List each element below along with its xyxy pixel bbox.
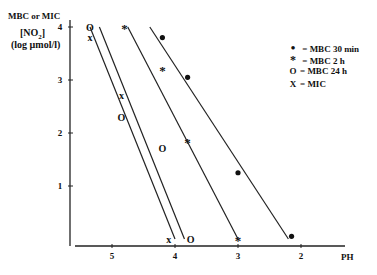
x-tick-label: 2 xyxy=(299,251,304,261)
legend-label: = MBC 2 h xyxy=(302,56,344,66)
legend-item-mbc-2h: * = MBC 2 h xyxy=(286,53,359,65)
data-point-star: * xyxy=(184,135,191,150)
fit-line xyxy=(128,27,238,239)
data-point-circle: O xyxy=(187,234,195,245)
data-point-star: * xyxy=(121,21,128,36)
data-point-star: * xyxy=(235,233,242,248)
legend-label: = MIC xyxy=(300,79,326,89)
y-tick-label: 1 xyxy=(58,181,63,191)
legend-item-mbc-30min: • = MBC 30 min xyxy=(286,40,359,52)
y-tick-label: 2 xyxy=(58,128,63,138)
x-tick-label: 3 xyxy=(236,251,241,261)
fit-line xyxy=(150,27,289,239)
data-point-circle: O xyxy=(159,143,167,154)
legend-symbol: O xyxy=(286,66,300,76)
x-tick-label: 4 xyxy=(173,251,178,261)
data-point-dot xyxy=(235,170,240,175)
fit-line xyxy=(99,27,184,239)
fit-line xyxy=(90,27,175,239)
legend: • = MBC 30 min * = MBC 2 h O= MBC 24 h X… xyxy=(286,40,359,91)
y-tick-label: 3 xyxy=(58,75,63,85)
x-tick-label: 5 xyxy=(110,251,115,261)
data-point-star: * xyxy=(159,63,166,78)
legend-item-mbc-24h: O= MBC 24 h xyxy=(286,66,359,78)
legend-symbol: X xyxy=(286,79,300,89)
data-point-cross: x xyxy=(166,234,171,245)
y-tick-label: 4 xyxy=(58,22,63,32)
legend-label: = MBC 24 h xyxy=(300,66,347,76)
legend-item-mic: X= MIC xyxy=(286,79,359,91)
x-axis-label: PH xyxy=(341,252,354,262)
data-point-dot xyxy=(160,35,165,40)
data-point-cross: x xyxy=(87,32,92,43)
data-point-dot xyxy=(185,75,190,80)
data-point-dot xyxy=(289,234,294,239)
data-point-cross: x xyxy=(119,90,124,101)
